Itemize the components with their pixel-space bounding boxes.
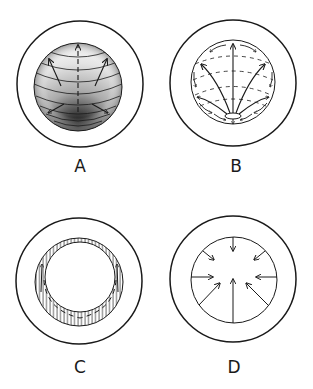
pole-ellipse bbox=[225, 113, 241, 119]
panel-b: B bbox=[170, 20, 296, 176]
panel-c: C bbox=[16, 218, 142, 377]
panel-d: D bbox=[170, 216, 296, 377]
figure: A B bbox=[0, 0, 313, 389]
panel-label-b: B bbox=[230, 156, 242, 176]
inner-circle bbox=[191, 237, 277, 323]
panel-label-c: C bbox=[74, 357, 86, 377]
panel-a: A bbox=[17, 21, 143, 176]
inner-void bbox=[45, 242, 115, 312]
panel-label-d: D bbox=[227, 357, 240, 377]
panel-label-a: A bbox=[74, 156, 86, 176]
